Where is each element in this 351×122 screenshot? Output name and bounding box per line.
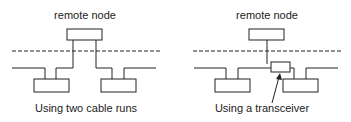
cable-run-right (124, 68, 156, 79)
cable-run-left (12, 68, 45, 79)
cable-transceiver-to-right (290, 68, 294, 79)
local-node-box-left (215, 79, 250, 92)
local-node-box-right (101, 79, 136, 92)
local-node-box-left (34, 79, 69, 92)
cable-run-right-from-remote (96, 40, 112, 79)
arrow-head-icon (276, 73, 282, 80)
cable-left-to-transceiver (238, 68, 271, 79)
local-node-box-right (283, 79, 318, 92)
cable-left-end (194, 68, 226, 79)
left-remote-node-label: remote node (54, 9, 116, 21)
cable-run-left-to-remote (56, 40, 73, 79)
right-caption: Using a transceiver (215, 102, 309, 114)
left-diagram (12, 29, 161, 92)
left-caption: Using two cable runs (35, 102, 137, 114)
right-diagram (193, 29, 342, 103)
transceiver-box (271, 62, 290, 72)
cable-right-end (306, 68, 338, 79)
remote-node-box (67, 29, 102, 40)
remote-node-box (249, 29, 284, 40)
right-remote-node-label: remote node (236, 9, 298, 21)
arrow-line (272, 77, 279, 103)
